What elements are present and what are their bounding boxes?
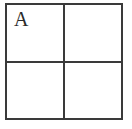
grid-cell-bottom-right: [64, 62, 121, 119]
cell-label-a: A: [14, 9, 28, 29]
two-by-two-grid: A: [5, 3, 123, 120]
grid-cell-top-left: A: [7, 5, 64, 62]
grid-cell-top-right: [64, 5, 121, 62]
figure-canvas: A: [0, 0, 132, 129]
grid-cell-bottom-left: [7, 62, 64, 119]
